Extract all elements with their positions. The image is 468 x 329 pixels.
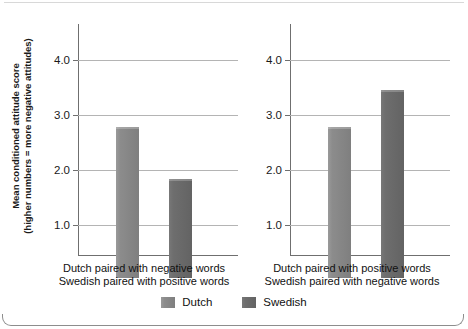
y-tick-1 xyxy=(73,225,78,226)
x-axis-caption-left: Dutch paired with negative words Swedish… xyxy=(36,262,252,288)
gridline-2 xyxy=(290,170,450,171)
bar-right-dutch[interactable] xyxy=(328,127,351,278)
y-axis-line-right xyxy=(290,24,291,256)
legend-item-swedish[interactable]: Swedish xyxy=(242,296,306,308)
y-tick-4 xyxy=(73,60,78,61)
y-tick-label-3: 3.0 xyxy=(266,109,282,121)
x-axis-line-right xyxy=(290,255,450,256)
bar-right-swedish[interactable] xyxy=(381,90,404,278)
y-tick-4 xyxy=(285,60,290,61)
x-caption-left-line1: Dutch paired with negative words xyxy=(36,262,252,275)
figure-bottom-frame xyxy=(2,314,464,326)
x-caption-right-line2: Swedish paired with negative words xyxy=(244,275,460,288)
x-axis-caption-right: Dutch paired with positive words Swedish… xyxy=(244,262,460,288)
plot-area-right: 4.0 3.0 2.0 1.0 xyxy=(290,14,450,258)
y-axis-title-line2: (higher numbers = more negative attitude… xyxy=(22,38,34,234)
gridline-1 xyxy=(78,225,238,226)
y-tick-label-2: 2.0 xyxy=(266,164,282,176)
y-tick-label-1: 1.0 xyxy=(266,219,282,231)
y-tick-label-4: 4.0 xyxy=(266,54,282,66)
gridline-4 xyxy=(78,60,238,61)
bar-highlight xyxy=(169,179,192,181)
legend-swatch-dutch-icon xyxy=(161,297,175,308)
bar-highlight xyxy=(381,90,404,92)
gridline-1 xyxy=(290,225,450,226)
x-axis-line-left xyxy=(78,255,238,256)
y-tick-2 xyxy=(73,170,78,171)
y-axis-title-line1: Mean conditioned attitude score xyxy=(10,38,22,234)
figure-top-rule xyxy=(4,2,464,3)
bar-highlight xyxy=(116,127,139,129)
legend-item-dutch[interactable]: Dutch xyxy=(161,296,212,308)
y-tick-3 xyxy=(285,115,290,116)
legend-swatch-swedish-icon xyxy=(242,297,256,308)
y-tick-label-4: 4.0 xyxy=(54,54,70,66)
y-tick-1 xyxy=(285,225,290,226)
x-caption-left-line2: Swedish paired with positive words xyxy=(36,275,252,288)
x-caption-right-line1: Dutch paired with positive words xyxy=(244,262,460,275)
plot-area-left: 4.0 3.0 2.0 1.0 xyxy=(78,14,238,258)
figure-bar-chart: Mean conditioned attitude score (higher … xyxy=(0,0,468,329)
y-tick-2 xyxy=(285,170,290,171)
gridline-4 xyxy=(290,60,450,61)
gridline-2 xyxy=(78,170,238,171)
chart-legend: Dutch Swedish xyxy=(0,296,468,308)
chart-panel-left: 4.0 3.0 2.0 1.0 xyxy=(50,14,240,258)
gridline-3 xyxy=(290,115,450,116)
y-tick-label-2: 2.0 xyxy=(54,164,70,176)
bar-left-dutch[interactable] xyxy=(116,127,139,278)
y-tick-label-3: 3.0 xyxy=(54,109,70,121)
bar-highlight xyxy=(328,127,351,129)
legend-label-swedish: Swedish xyxy=(263,296,306,308)
y-axis-title: Mean conditioned attitude score (higher … xyxy=(0,14,44,258)
chart-panel-right: 4.0 3.0 2.0 1.0 xyxy=(262,14,452,258)
y-tick-3 xyxy=(73,115,78,116)
y-tick-label-1: 1.0 xyxy=(54,219,70,231)
gridline-3 xyxy=(78,115,238,116)
y-axis-line-left xyxy=(78,24,79,256)
legend-label-dutch: Dutch xyxy=(182,296,212,308)
